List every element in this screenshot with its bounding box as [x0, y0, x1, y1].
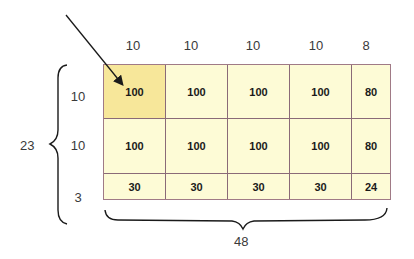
left-brace — [50, 65, 67, 224]
bottom-brace — [105, 208, 387, 229]
annotations — [0, 0, 414, 259]
pointer-arrow — [66, 15, 122, 84]
